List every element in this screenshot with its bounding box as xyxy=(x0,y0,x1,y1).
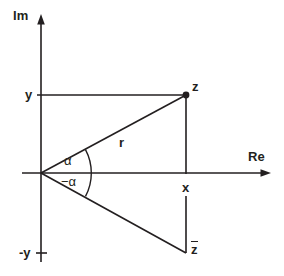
diagram-canvas xyxy=(0,0,284,276)
real-axis xyxy=(22,169,271,177)
angle-negative-label: −α xyxy=(61,175,76,188)
imaginary-axis-label: Im xyxy=(13,9,29,22)
imaginary-axis-arrowhead-icon xyxy=(37,14,45,25)
point-z-conjugate-letter: z xyxy=(191,242,198,257)
point-z-marker xyxy=(183,92,190,99)
modulus-label: r xyxy=(119,136,124,149)
real-part-label: x xyxy=(182,181,189,194)
imaginary-part-label: y xyxy=(25,88,32,101)
modulus-segment-z xyxy=(41,95,186,173)
point-z-label: z xyxy=(192,80,199,93)
real-axis-label: Re xyxy=(248,150,265,163)
argand-diagram: Im Re y -y x r z z α −α xyxy=(0,0,284,276)
negative-imaginary-part-label: -y xyxy=(19,246,31,259)
real-axis-arrowhead-icon xyxy=(261,169,272,177)
imaginary-axis xyxy=(37,14,45,262)
point-z-conjugate-label: z xyxy=(191,241,198,256)
angle-positive-label: α xyxy=(64,154,72,167)
